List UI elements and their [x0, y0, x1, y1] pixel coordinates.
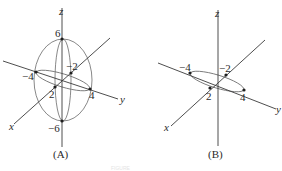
point-z-neg — [60, 119, 63, 122]
label-z-neg: −6 — [48, 122, 60, 134]
figure-canvas: z y x 6 −6 −4 4 −2 2 (A) z y x −4 4 −2 2… — [0, 0, 282, 171]
label-y-pos: 4 — [89, 89, 95, 101]
label-x-pos: 2 — [49, 88, 55, 100]
label-x-pos: 2 — [206, 90, 212, 102]
z-axis-label: z — [214, 7, 220, 19]
point-y-neg — [34, 70, 37, 73]
panel-a-caption: (A) — [53, 148, 69, 161]
z-axis-label: z — [58, 5, 64, 17]
label-x-neg: −2 — [66, 60, 78, 72]
y-axis — [3, 61, 118, 99]
label-y-neg: −4 — [22, 70, 34, 82]
panel-a-ellipsoid: z y x 6 −6 −4 4 −2 2 (A) — [3, 5, 125, 161]
panel-b-caption: (B) — [208, 148, 223, 161]
label-y-pos: 4 — [240, 91, 246, 103]
y-axis-label: y — [275, 103, 281, 115]
label-x-neg: −2 — [219, 62, 231, 74]
label-y-neg: −4 — [179, 61, 191, 73]
x-axis-label: x — [8, 120, 14, 132]
figure-footer-faint: FIGURE — [111, 165, 131, 171]
y-axis-label: y — [119, 93, 125, 105]
point-z-pos — [60, 37, 63, 40]
y-axis — [158, 63, 276, 109]
panel-b-ellipse: z y x −4 4 −2 2 (B) — [158, 7, 281, 161]
ellipse-xy — [188, 67, 245, 96]
x-axis-label: x — [163, 121, 169, 133]
label-z-pos: 6 — [55, 27, 61, 39]
